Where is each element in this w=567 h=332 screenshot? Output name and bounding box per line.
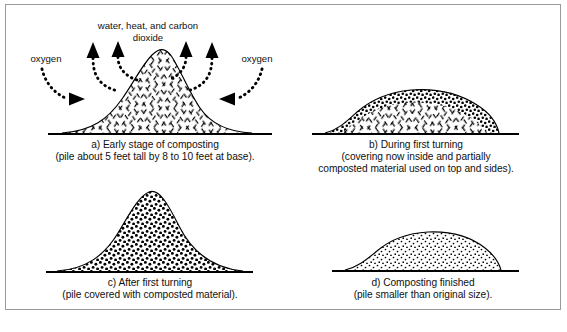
panel-b-caption-line1: b) During first turning bbox=[369, 139, 463, 150]
panel-a-caption-line2: (pile about 5 feet tall by 8 to 10 feet … bbox=[55, 151, 254, 162]
oxygen-arrow-right-tail bbox=[236, 69, 262, 99]
panel-c: c) After first turning (pile covered wit… bbox=[46, 185, 255, 300]
emission-arrow-head-4 bbox=[206, 42, 219, 58]
emission-arrow-head-1 bbox=[87, 42, 100, 58]
pile-d-fill bbox=[338, 226, 513, 276]
pile-c-fill bbox=[50, 185, 255, 277]
panel-b-caption-line2: (covering now inside and partially bbox=[342, 151, 492, 162]
oxygen-arrow-left bbox=[42, 69, 85, 106]
panel-c-caption-line1: c) After first turning bbox=[108, 277, 193, 288]
emission-label-line2: dioxide bbox=[133, 32, 163, 43]
oxygen-arrow-right bbox=[219, 69, 262, 106]
oxygen-label-left: oxygen bbox=[31, 53, 62, 64]
oxygen-arrow-left-head bbox=[69, 93, 85, 106]
panel-a-caption-line1: a) Early stage of composting bbox=[91, 139, 219, 150]
panel-c-caption-line2: (pile covered with composted material). bbox=[62, 289, 237, 300]
emission-arrow-head-3 bbox=[180, 41, 193, 57]
panel-a: water, heat, and carbon dioxide oxygen o… bbox=[31, 20, 273, 162]
composting-diagram-figure: water, heat, and carbon dioxide oxygen o… bbox=[0, 0, 567, 332]
oxygen-arrow-right-head bbox=[219, 93, 235, 106]
diagram-canvas: water, heat, and carbon dioxide oxygen o… bbox=[0, 0, 567, 332]
panel-d: d) Composting finished (pile smaller tha… bbox=[332, 226, 519, 300]
oxygen-arrow-left-tail bbox=[42, 69, 68, 99]
panel-b: b) During first turning (covering now in… bbox=[312, 80, 519, 174]
emission-arrow-tail-4 bbox=[187, 58, 212, 91]
panel-d-caption-line2: (pile smaller than original size). bbox=[354, 289, 493, 300]
emission-arrow-tail-2 bbox=[118, 57, 137, 80]
emission-label-line1: water, heat, and carbon bbox=[97, 20, 198, 31]
panel-b-caption-line3: composted material used on top and sides… bbox=[318, 163, 514, 174]
emission-arrow-head-2 bbox=[112, 41, 125, 57]
emission-arrow-tail-1 bbox=[93, 58, 118, 91]
oxygen-label-right: oxygen bbox=[242, 53, 273, 64]
pile-a-fill bbox=[50, 40, 265, 140]
panel-d-caption-line1: d) Composting finished bbox=[371, 277, 474, 288]
